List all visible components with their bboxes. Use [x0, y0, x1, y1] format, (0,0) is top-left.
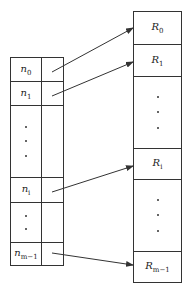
arrow-n1-to-R1 — [52, 62, 133, 96]
arrow-n0-to-R0 — [52, 28, 133, 72]
arrow-nm-1-to-Rm-1 — [52, 253, 133, 265]
pointer-arrows — [0, 0, 194, 291]
arrow-ni-to-Ri — [52, 166, 133, 192]
